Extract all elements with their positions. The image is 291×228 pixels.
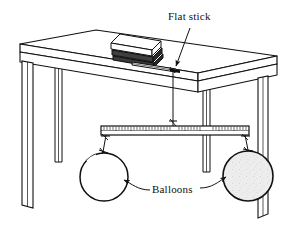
diagram-canvas [0,0,291,228]
table-leg-back-left [55,64,62,162]
table-leg-front-left [22,61,33,208]
ruler-beam [101,126,249,135]
balloons-label: Balloons [152,183,193,195]
balloon-left-assembly [80,134,128,201]
balloons-leader-right [200,177,226,188]
flat-stick-label: Flat stick [168,10,211,22]
physics-diagram-balloon-balance: Flat stick Balloons [0,0,291,228]
balloon-right [223,151,273,201]
